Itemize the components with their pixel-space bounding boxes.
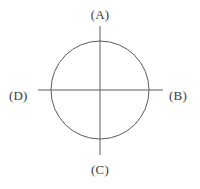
figure-canvas: (A) (B) (C) (D) [0, 0, 200, 189]
label-right-b: (B) [169, 89, 187, 102]
label-bottom-c: (C) [0, 163, 200, 176]
label-top-a: (A) [0, 8, 200, 21]
label-left-d: (D) [9, 89, 28, 102]
